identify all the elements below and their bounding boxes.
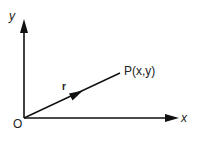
- vector-arrowhead-icon: [69, 91, 83, 101]
- x-axis-label: x: [180, 111, 188, 125]
- x-axis-arrowhead-icon: [165, 114, 179, 122]
- point-label: P(x,y): [124, 64, 155, 78]
- position-vector-diagram: y x O r P(x,y): [0, 0, 198, 153]
- vector-label: r: [62, 81, 66, 92]
- vector-r: [24, 73, 120, 118]
- y-axis-label: y: [8, 9, 16, 23]
- y-axis-arrowhead-icon: [20, 19, 28, 33]
- x-axis: [24, 114, 179, 122]
- origin-label: O: [13, 117, 22, 131]
- y-axis: [20, 19, 28, 118]
